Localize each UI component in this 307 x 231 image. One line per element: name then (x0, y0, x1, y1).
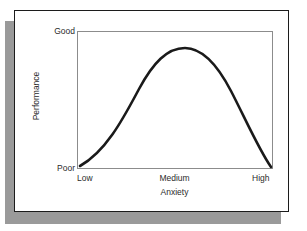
performance-curve (77, 31, 273, 169)
screenshot-root: Good Poor Performance Low Medium High An… (0, 0, 307, 231)
y-tick-label-good: Good (54, 26, 75, 36)
chart-figure: Good Poor Performance Low Medium High An… (15, 11, 290, 213)
y-axis-title: Performance (31, 61, 41, 131)
x-tick-label-high: High (252, 173, 269, 183)
figure-card: Good Poor Performance Low Medium High An… (14, 10, 289, 212)
x-axis-title: Anxiety (37, 187, 307, 197)
y-tick-label-poor: Poor (57, 163, 75, 173)
